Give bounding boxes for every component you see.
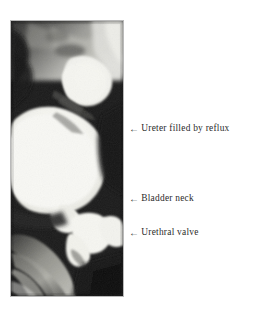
left-arrow-icon: ← <box>129 227 139 238</box>
annotation-label-bladder-neck: Bladder neck <box>141 193 194 204</box>
radiograph-image <box>10 20 124 297</box>
left-arrow-icon: ← <box>129 123 139 134</box>
radiograph-canvas <box>11 21 123 296</box>
left-arrow-icon: ← <box>129 193 139 204</box>
annotation-ureter-filled-by-reflux: ← Ureter filled by reflux <box>129 123 230 134</box>
annotation-urethral-valve: ← Urethral valve <box>129 227 199 238</box>
annotation-bladder-neck: ← Bladder neck <box>129 193 194 204</box>
annotation-label-ureter: Ureter filled by reflux <box>141 123 229 134</box>
figure-root: ← Ureter filled by reflux ← Bladder neck… <box>0 0 272 311</box>
annotation-label-urethral-valve: Urethral valve <box>141 227 198 238</box>
film-grain-overlay <box>11 21 123 296</box>
